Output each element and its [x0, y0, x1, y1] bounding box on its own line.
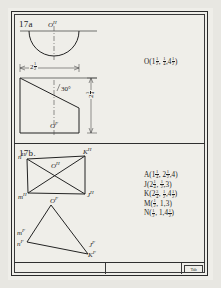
coordinate-M: M(12, 1,3) — [144, 199, 172, 208]
label-m-top-view: mH — [18, 192, 27, 201]
title-block-cell-1 — [14, 263, 106, 274]
coordinate-J: J(214, 12,3) — [144, 180, 172, 189]
title-block: Tab — [14, 262, 205, 273]
label-n-front-view: nF — [17, 239, 24, 248]
triangle-front-view — [27, 205, 88, 254]
title-block-cell-2 — [106, 263, 182, 274]
panel-b-geometry — [0, 0, 221, 288]
label-O-top-view-b: OH — [51, 161, 60, 170]
label-J-front-view: JF — [89, 240, 95, 249]
title-block-stamp: Tab — [184, 265, 203, 273]
label-O-front-view-b: OF — [50, 196, 58, 205]
worksheet-sheet: 17a OH OF 212 — [0, 0, 221, 288]
label-K-top-view: KH — [83, 147, 91, 156]
label-m-front-view: mF — [17, 228, 25, 237]
coordinate-N: N(12, 1,412) — [144, 208, 174, 217]
label-n-top-view: nH — [18, 152, 25, 161]
coordinate-K: K(234, 12,412) — [144, 189, 177, 198]
label-J-top-view: JH — [87, 190, 94, 199]
label-K-front-view: KF — [88, 250, 96, 259]
